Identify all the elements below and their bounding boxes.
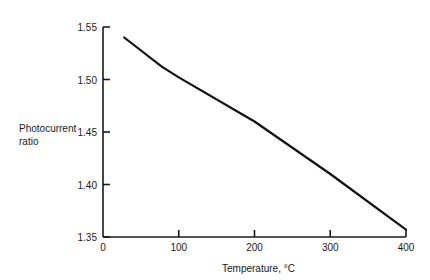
x-axis-title: Temperature, °C [222,263,295,274]
y-tick-label: 1.35 [78,232,98,243]
x-tick-label: 200 [246,242,263,253]
x-ticks: 0100200300400 [100,230,415,253]
y-tick-label: 1.50 [78,75,98,86]
x-tick-label: 400 [398,242,415,253]
y-tick-label: 1.40 [78,180,98,191]
y-tick-label: 1.55 [78,22,98,33]
data-line [124,38,406,230]
y-ticks: 1.351.401.451.501.55 [78,22,110,243]
x-tick-label: 300 [322,242,339,253]
axes: 1.351.401.451.501.55 0100200300400 [78,22,415,253]
line-chart: 1.351.401.451.501.55 0100200300400 Photo… [0,0,430,280]
y-axis-title-line-2: ratio [19,136,39,147]
chart-figure: 1.351.401.451.501.55 0100200300400 Photo… [0,0,430,280]
y-tick-label: 1.45 [78,127,98,138]
y-axis-title-line-1: Photocurrent [19,123,76,134]
x-tick-label: 100 [170,242,187,253]
x-tick-label: 0 [100,242,106,253]
